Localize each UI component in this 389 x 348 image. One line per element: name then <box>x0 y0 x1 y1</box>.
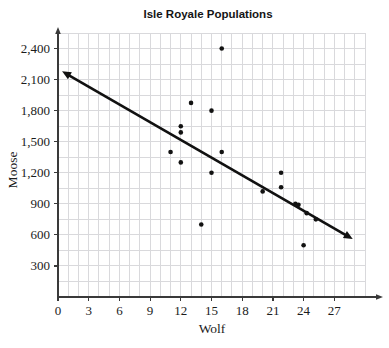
x-tick-label: 9 <box>147 303 154 318</box>
data-point <box>168 150 173 155</box>
y-tick-label: 1,500 <box>21 134 50 149</box>
data-point <box>179 130 184 135</box>
data-point <box>301 243 306 248</box>
y-tick-label: 2,400 <box>21 41 50 56</box>
y-tick-label: 1,200 <box>21 165 50 180</box>
data-point <box>279 170 284 175</box>
data-point <box>314 217 319 222</box>
data-point <box>209 108 214 113</box>
x-tick-label: 18 <box>236 303 249 318</box>
x-tick-label: 3 <box>85 303 92 318</box>
data-point <box>179 124 184 129</box>
chart-title: Isle Royale Populations <box>143 8 272 20</box>
x-tick-label: 24 <box>297 303 311 318</box>
data-point <box>209 170 214 175</box>
isle-royale-scatter-plot: Isle Royale Populations 0369121518212427… <box>0 0 389 348</box>
data-point <box>219 46 224 51</box>
x-tick-label: 15 <box>205 303 218 318</box>
data-point <box>219 150 224 155</box>
data-point <box>304 211 309 216</box>
data-point <box>199 222 204 227</box>
x-tick-label: 27 <box>328 303 342 318</box>
data-point <box>189 101 194 106</box>
data-point <box>296 203 301 208</box>
x-tick-label: 21 <box>266 303 279 318</box>
y-tick-label: 1,800 <box>21 103 50 118</box>
y-tick-label: 2,100 <box>21 72 50 87</box>
y-tick-label: 300 <box>31 258 51 273</box>
y-axis-title: Moose <box>5 152 20 189</box>
y-tick-label: 600 <box>31 227 51 242</box>
data-point <box>179 160 184 165</box>
data-point <box>279 185 284 190</box>
y-tick-label: 900 <box>31 196 51 211</box>
chart-container: Isle Royale Populations 0369121518212427… <box>0 0 389 348</box>
x-tick-label: 6 <box>116 303 123 318</box>
x-axis-title: Wolf <box>199 321 226 336</box>
x-tick-label: 12 <box>174 303 187 318</box>
data-point <box>260 189 265 194</box>
x-tick-label: 0 <box>55 303 62 318</box>
